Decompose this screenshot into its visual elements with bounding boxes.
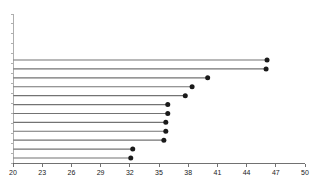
chart-canvas: 2023262932353841444750 [0, 0, 319, 186]
x-tick-label: 29 [97, 169, 105, 176]
value-marker-dot [163, 129, 168, 134]
value-marker-dot [130, 147, 135, 152]
lollipop-item [13, 120, 168, 125]
lollipop-item [13, 102, 170, 107]
x-tick-labels: 2023262932353841444750 [9, 169, 309, 176]
value-marker-dot [165, 111, 170, 116]
value-marker-dot [264, 66, 269, 71]
value-marker-dot [190, 84, 195, 89]
lollipop-item [13, 66, 269, 71]
lollipop-item [13, 156, 133, 161]
x-tick-label: 41 [214, 169, 222, 176]
lollipop-chart: 2023262932353841444750 [0, 0, 319, 186]
x-tick-label: 32 [126, 169, 134, 176]
lollipop-item [13, 84, 195, 89]
value-marker-dot [165, 102, 170, 107]
x-tick-label: 26 [68, 169, 76, 176]
x-tick-label: 23 [38, 169, 46, 176]
lollipop-item [13, 111, 170, 116]
lollipop-item [13, 129, 168, 134]
lollipop-item [13, 93, 188, 98]
value-marker-dot [265, 58, 270, 63]
value-marker-dot [205, 75, 210, 80]
lollipop-item [13, 75, 210, 80]
stems-group [13, 58, 270, 161]
y-axis [11, 14, 14, 164]
value-marker-dot [161, 138, 166, 143]
lollipop-item [13, 58, 270, 63]
x-tick-label: 50 [301, 169, 309, 176]
x-tick-label: 47 [272, 169, 280, 176]
lollipop-item [13, 138, 166, 143]
x-tick-label: 35 [155, 169, 163, 176]
x-axis [13, 164, 305, 167]
value-marker-dot [128, 156, 133, 161]
value-marker-dot [183, 93, 188, 98]
value-marker-dot [163, 120, 168, 125]
x-tick-label: 20 [9, 169, 17, 176]
lollipop-item [13, 147, 135, 152]
x-tick-label: 44 [243, 169, 251, 176]
x-tick-label: 38 [184, 169, 192, 176]
